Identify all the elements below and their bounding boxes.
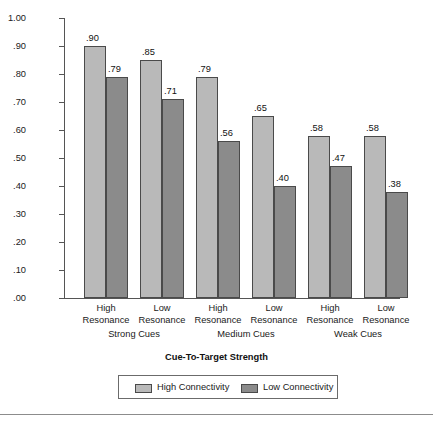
bar: [106, 77, 128, 298]
bar-value-label: .85: [142, 48, 155, 57]
bar: [364, 136, 386, 298]
x-axis-line: [64, 298, 400, 299]
x-axis-category-label-line: Resonance: [346, 315, 426, 327]
y-axis-tick-mark: [59, 242, 64, 243]
bar-value-label: .65: [254, 104, 267, 113]
x-axis-group-label: Strong Cues: [84, 329, 184, 340]
y-axis-tick-mark: [59, 298, 64, 299]
bar: [386, 192, 408, 298]
y-axis-tick-mark: [59, 214, 64, 215]
bar-value-label: .47: [332, 154, 345, 163]
bar-chart-figure: Probability off and Recall 1.00.90.80.70…: [0, 0, 433, 424]
bar-value-label: .90: [86, 34, 99, 43]
bar-value-label: .40: [276, 174, 289, 183]
bar: [308, 136, 330, 298]
y-axis-tick-label: .00: [0, 294, 26, 303]
legend-entry: Low Connectivity: [241, 382, 333, 394]
y-axis-tick-mark: [59, 74, 64, 75]
bar: [330, 166, 352, 298]
y-axis-tick-label: .30: [0, 210, 26, 219]
y-axis-tick-mark: [59, 46, 64, 47]
legend-swatch-icon: [241, 384, 258, 393]
y-axis-tick-label: .60: [0, 126, 26, 135]
bar-value-label: .58: [366, 124, 379, 133]
x-axis-title: Cue-To-Target Strength: [0, 352, 433, 362]
y-axis-tick-mark: [59, 102, 64, 103]
bar: [274, 186, 296, 298]
y-axis-tick-mark: [59, 270, 64, 271]
bar: [218, 141, 240, 298]
y-axis-tick-label: .70: [0, 98, 26, 107]
plot-area: 1.00.90.80.70.60.50.40.30.20.10.00 .90.8…: [64, 18, 400, 299]
legend-swatch-icon: [135, 384, 152, 393]
y-axis-line: [64, 18, 65, 299]
bar: [252, 116, 274, 298]
bar: [84, 46, 106, 298]
footer-divider: [0, 414, 433, 415]
legend-entry: High Connectivity: [135, 382, 229, 394]
y-axis-tick-label: 1.00: [0, 14, 26, 23]
bar-value-label: .58: [310, 124, 323, 133]
x-axis-group-label: Medium Cues: [196, 329, 296, 340]
y-axis-tick-mark: [59, 158, 64, 159]
bar: [140, 60, 162, 298]
bar: [196, 77, 218, 298]
y-axis-tick-label: .50: [0, 154, 26, 163]
bar-value-label: .56: [220, 129, 233, 138]
legend-label: Low Connectivity: [263, 383, 333, 392]
chart-legend: High ConnectivityLow Connectivity: [118, 375, 338, 399]
y-axis-tick-label: .80: [0, 70, 26, 79]
y-axis-tick-label: .90: [0, 42, 26, 51]
x-axis-category-label: LowResonance: [346, 303, 426, 326]
y-axis-tick-mark: [59, 186, 64, 187]
bar-value-label: .79: [108, 65, 121, 74]
y-axis-tick-label: .10: [0, 266, 26, 275]
x-axis-group-label: Weak Cues: [308, 329, 408, 340]
y-axis-tick-label: .20: [0, 238, 26, 247]
y-axis-tick-mark: [59, 130, 64, 131]
bar-value-label: .79: [198, 65, 211, 74]
legend-label: High Connectivity: [157, 383, 229, 392]
bar-value-label: .71: [164, 87, 177, 96]
bar-value-label: .38: [388, 180, 401, 189]
y-axis-tick-mark: [59, 18, 64, 19]
x-axis-category-label-line: Low: [346, 303, 426, 315]
y-axis-tick-label: .40: [0, 182, 26, 191]
bar: [162, 99, 184, 298]
